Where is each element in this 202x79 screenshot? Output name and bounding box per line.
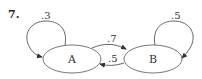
edge-label-a-a: .3	[41, 10, 51, 21]
diagram-svg: 7. .3 .5 .7 .5 A B	[0, 0, 202, 79]
edge-label-b-a: .5	[108, 53, 118, 64]
edge-a-to-b	[92, 44, 126, 49]
edge-label-a-b: .7	[107, 33, 117, 44]
node-b-label: B	[149, 53, 157, 66]
edge-label-b-b: .5	[171, 10, 181, 21]
problem-number: 7.	[8, 8, 19, 21]
markov-chain-diagram: 7. .3 .5 .7 .5 A B	[0, 0, 202, 79]
node-a-label: A	[67, 53, 77, 66]
